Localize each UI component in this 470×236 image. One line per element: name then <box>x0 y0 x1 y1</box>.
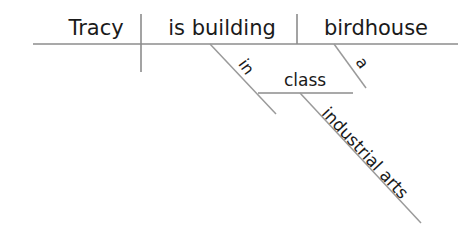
sentence-diagram-canvas: Tracy is building birdhouse a in class i… <box>0 0 470 236</box>
label-verb: is building <box>168 16 276 40</box>
line-preposition-slant <box>210 44 276 114</box>
label-direct-object: birdhouse <box>324 16 428 40</box>
label-article: a <box>352 53 373 72</box>
sentence-diagram: Tracy is building birdhouse a in class i… <box>0 0 470 236</box>
label-subject: Tracy <box>67 16 123 40</box>
label-modifier: industrial arts <box>318 103 413 203</box>
label-object-of-preposition: class <box>284 70 326 90</box>
